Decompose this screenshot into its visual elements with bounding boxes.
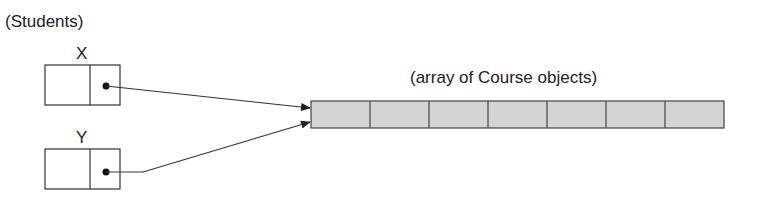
arrow-x-to-array: [106, 86, 310, 108]
course-array: [311, 101, 724, 128]
variable-y-box: [45, 149, 120, 189]
arrow-y-to-array: [106, 122, 310, 172]
diagram-canvas: [0, 0, 760, 201]
